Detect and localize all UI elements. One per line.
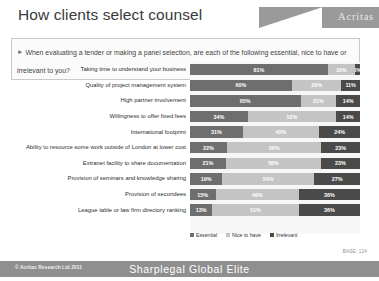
slide-footer: Sharplegal Global Elite © Acritas Resear… — [0, 261, 379, 277]
category-label: Provision of secondees — [0, 191, 190, 198]
chart-legend: EssentialNice to haveIrrelevant — [190, 232, 360, 238]
legend-label: Nice to have — [232, 232, 261, 238]
category-label: Extranet facility to share documentation — [0, 160, 190, 167]
bar-segment-irrelevant: 27% — [314, 173, 360, 184]
bar-segment-irrelevant: 23% — [321, 158, 360, 169]
bar-track: 13%51%36% — [190, 204, 360, 215]
category-label: Ability to resource some work outside of… — [0, 144, 190, 151]
chart-row: International footprint31%45%24% — [0, 124, 379, 140]
bar-track: 22%56%23% — [190, 142, 360, 153]
bar-segment-essential: 19% — [190, 173, 222, 184]
chart-row: Provision of secondees15%49%36% — [0, 187, 379, 203]
category-label: Taking time to understand your business — [0, 66, 190, 73]
bar-segment-nice: 56% — [227, 142, 321, 153]
category-label: International footprint — [0, 129, 190, 136]
bar-segment-nice: 54% — [222, 173, 314, 184]
bar-segment-irrelevant: 36% — [299, 204, 360, 215]
slide-canvas: How clients select counsel Acritas ►When… — [0, 0, 379, 281]
legend-label: Irrelevant — [276, 232, 298, 238]
chart-rows: Taking time to understand your business8… — [0, 62, 379, 218]
bar-segment-essential: 13% — [190, 204, 212, 215]
bar-segment-essential: 34% — [190, 111, 248, 122]
bar-segment-irrelevant: 3% — [355, 64, 360, 75]
bar-segment-essential: 15% — [190, 189, 216, 200]
bar-segment-essential: 81% — [190, 64, 328, 75]
logo-triangle-shape — [259, 7, 323, 28]
chart-row: Willingness to offer fixed fees34%52%14% — [0, 109, 379, 125]
bar-track: 65%21%14% — [190, 95, 360, 106]
bar-track: 21%56%23% — [190, 158, 360, 169]
bar-segment-irrelevant: 23% — [321, 142, 360, 153]
chart-row: Quality of project management system60%2… — [0, 78, 379, 94]
bar-segment-irrelevant: 24% — [319, 126, 360, 137]
bar-segment-nice: 21% — [301, 95, 337, 106]
bar-segment-nice: 16% — [328, 64, 355, 75]
legend-item-irrelevant[interactable]: Irrelevant — [270, 232, 298, 238]
base-note: BASE: 124 — [343, 249, 367, 254]
bar-track: 34%52%14% — [190, 111, 360, 122]
brand-logo-text: Acritas — [338, 11, 374, 22]
category-label: Provision of seminars and knowledge shar… — [0, 175, 190, 182]
bar-track: 19%54%27% — [190, 173, 360, 184]
bar-segment-nice: 51% — [212, 204, 299, 215]
wedge-logo-icon: Acritas — [259, 7, 379, 28]
chart-row: Provision of seminars and knowledge shar… — [0, 171, 379, 187]
bar-segment-essential: 22% — [190, 142, 227, 153]
legend-swatch-essential-icon — [190, 233, 194, 237]
bar-segment-irrelevant: 36% — [299, 189, 360, 200]
bar-track: 15%49%36% — [190, 189, 360, 200]
category-label: Willingness to offer fixed fees — [0, 113, 190, 120]
chart-row: Taking time to understand your business8… — [0, 62, 379, 78]
category-label: League table or law firm directory ranki… — [0, 207, 190, 214]
stacked-bar-chart: Taking time to understand your business8… — [0, 62, 379, 234]
category-label: High partner involvement — [0, 97, 190, 104]
bar-segment-essential: 60% — [190, 80, 292, 91]
bar-track: 81%16%3% — [190, 64, 360, 75]
legend-item-nice[interactable]: Nice to have — [226, 232, 261, 238]
bar-segment-essential: 31% — [190, 126, 243, 137]
legend-item-essential[interactable]: Essential — [190, 232, 217, 238]
legend-swatch-nice-icon — [226, 233, 230, 237]
footer-copyright: © Acritas Research Ltd 2011 — [15, 265, 82, 270]
chart-row: High partner involvement65%21%14% — [0, 93, 379, 109]
bar-track: 60%29%11% — [190, 80, 360, 91]
bar-segment-irrelevant: 14% — [336, 111, 360, 122]
chart-row: League table or law firm directory ranki… — [0, 202, 379, 218]
page-title: How clients select counsel — [18, 6, 202, 24]
bar-segment-irrelevant: 11% — [341, 80, 360, 91]
bar-segment-essential: 21% — [190, 158, 226, 169]
triangle-right-icon: ► — [17, 48, 23, 55]
bar-segment-nice: 29% — [292, 80, 341, 91]
bar-segment-irrelevant: 14% — [336, 95, 360, 106]
chart-row: Extranet facility to share documentation… — [0, 156, 379, 172]
legend-swatch-irrelevant-icon — [270, 233, 274, 237]
chart-row: Ability to resource some work outside of… — [0, 140, 379, 156]
bar-segment-nice: 49% — [216, 189, 299, 200]
bar-segment-nice: 52% — [248, 111, 336, 122]
bar-track: 31%45%24% — [190, 126, 360, 137]
legend-label: Essential — [196, 232, 217, 238]
bar-segment-essential: 65% — [190, 95, 301, 106]
bar-segment-nice: 45% — [243, 126, 320, 137]
category-label: Quality of project management system — [0, 82, 190, 89]
slide-header: How clients select counsel Acritas — [0, 0, 379, 33]
bar-segment-nice: 56% — [226, 158, 321, 169]
